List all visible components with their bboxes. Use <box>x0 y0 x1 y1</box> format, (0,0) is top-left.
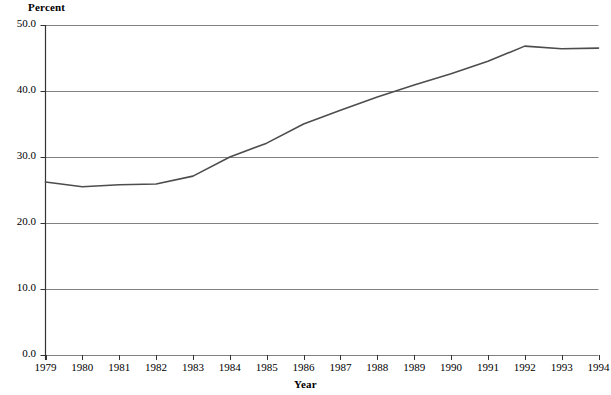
chart-plot-area <box>0 0 611 395</box>
y-axis-tick-label: 40.0 <box>0 83 36 95</box>
x-axis-tick-label: 1994 <box>577 361 611 373</box>
data-series-line <box>46 46 599 187</box>
y-axis-tick-label: 0.0 <box>0 347 36 359</box>
y-axis-tick-label: 10.0 <box>0 281 36 293</box>
y-axis-tick-label: 30.0 <box>0 149 36 161</box>
line-chart: Percent 0.010.020.030.040.050.0 19791980… <box>0 0 611 395</box>
gridlines <box>41 26 599 356</box>
x-axis-title: Year <box>0 378 611 390</box>
y-axis-tick-label: 50.0 <box>0 17 36 29</box>
y-axis-tick-label: 20.0 <box>0 215 36 227</box>
